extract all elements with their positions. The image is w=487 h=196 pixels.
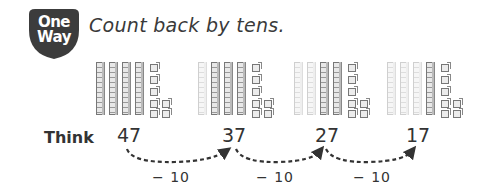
dotted-arrow-icon bbox=[236, 149, 320, 162]
dotted-arrow-icon bbox=[127, 149, 226, 162]
count-back-arrows bbox=[0, 0, 487, 196]
minus-ten-step: − 10 bbox=[256, 169, 294, 185]
dotted-arrow-icon bbox=[326, 149, 412, 162]
minus-ten-step: − 10 bbox=[152, 169, 190, 185]
minus-ten-step: − 10 bbox=[353, 169, 391, 185]
